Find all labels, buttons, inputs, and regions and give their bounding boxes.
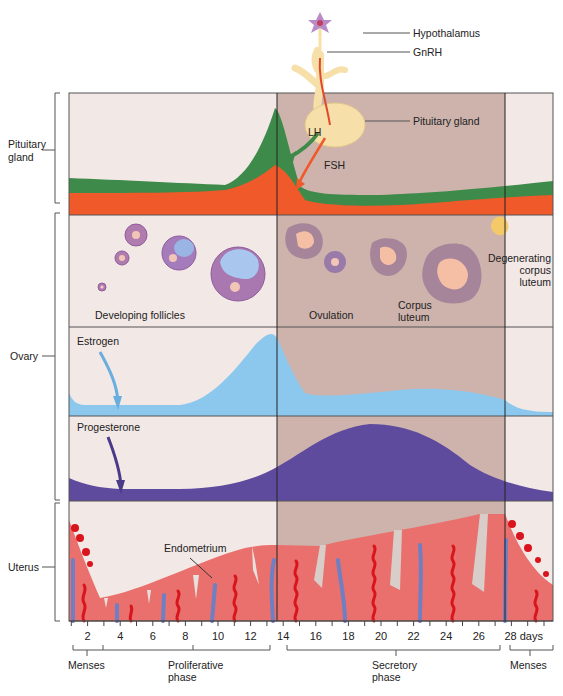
degenerating-label-1: Degenerating [488,252,551,264]
secretory-label-1: Secretory [372,659,417,671]
estrogen-label: Estrogen [77,335,119,347]
menses-label-1: Menses [68,659,105,671]
pituitary-side-label-2: gland [8,151,34,163]
x-tick-label: 8 [182,630,188,642]
ovary-side-label: Ovary [10,350,38,362]
x-tick-label: 6 [150,630,156,642]
x-tick-label: 24 [440,630,452,642]
x-tick-label: 16 [310,630,322,642]
x-tick-label: 22 [407,630,419,642]
x-axis-ticks [0,0,563,696]
corpus-luteum-label-1: Corpus [398,299,432,311]
x-tick-label: 18 [342,630,354,642]
fsh-label: FSH [324,159,345,171]
x-tick-label: 26 [473,630,485,642]
gnrh-label: GnRH [413,46,442,58]
pituitary-side-label-1: Pituitary [8,138,46,150]
x-tick-label: 14 [277,630,289,642]
x-tick-label: 20 [375,630,387,642]
secretory-label-2: phase [372,671,401,683]
x-tick-label: 10 [212,630,224,642]
lh-label: LH [308,126,321,138]
hypothalamus-label: Hypothalamus [413,27,480,39]
x-tick-label: 12 [244,630,256,642]
x-tick-label: 4 [117,630,123,642]
pituitary-gland-label: Pituitary gland [413,115,480,127]
uterus-side-label: Uterus [8,561,39,573]
developing-follicles-label: Developing follicles [95,309,185,321]
ovulation-label: Ovulation [309,309,353,321]
degenerating-label-2: corpus [519,264,551,276]
degenerating-label-3: luteum [519,276,551,288]
proliferative-label-1: Proliferative [168,659,223,671]
x-tick-label: 28 days [504,630,543,642]
menses-label-2: Menses [510,659,547,671]
corpus-luteum-label-2: luteum [398,311,430,323]
progesterone-label: Progesterone [77,421,140,433]
endometrium-label: Endometrium [164,542,226,554]
proliferative-label-2: phase [168,671,197,683]
x-tick-label: 2 [85,630,91,642]
